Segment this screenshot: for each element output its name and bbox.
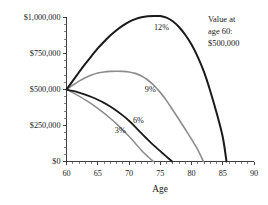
x-axis-tick-labels: 60657075808590 — [62, 169, 258, 178]
x-axis-group: 60657075808590 Age — [62, 162, 258, 195]
y-tick-label: $0 — [52, 157, 60, 166]
annotation-block: Value at age 60: $500,000 — [208, 15, 239, 48]
series-inline-labels-group: 3%6%9%12% — [115, 23, 169, 135]
y-tick-label: $750,000 — [30, 49, 61, 58]
annotation-line-1: Value at — [208, 15, 236, 24]
x-tick-label: 85 — [219, 169, 227, 178]
drawdown-line-chart: $0$250,000$500,000$750,000$1,000,000 606… — [0, 0, 268, 205]
x-axis-title: Age — [152, 184, 168, 194]
y-tick-label: $500,000 — [30, 85, 61, 94]
series-curve-3pct — [67, 90, 154, 162]
x-tick-label: 65 — [94, 169, 102, 178]
annotation-line-3: $500,000 — [208, 39, 239, 48]
series-label-9pct: 9% — [145, 85, 156, 94]
y-tick-label: $250,000 — [30, 121, 61, 130]
x-tick-label: 90 — [250, 169, 258, 178]
series-label-6pct: 6% — [133, 116, 144, 125]
x-tick-label: 75 — [156, 169, 164, 178]
series-label-12pct: 12% — [154, 23, 169, 32]
y-axis-tick-labels: $0$250,000$500,000$750,000$1,000,000 — [24, 13, 61, 166]
x-tick-label: 80 — [187, 169, 195, 178]
y-tick-label: $1,000,000 — [24, 13, 61, 22]
x-tick-label: 70 — [125, 169, 133, 178]
series-label-3pct: 3% — [115, 126, 126, 135]
annotation-line-2: age 60: — [208, 27, 232, 36]
chart-figure: $0$250,000$500,000$750,000$1,000,000 606… — [0, 0, 268, 205]
x-tick-label: 60 — [62, 169, 70, 178]
y-axis-group: $0$250,000$500,000$750,000$1,000,000 — [24, 13, 67, 166]
